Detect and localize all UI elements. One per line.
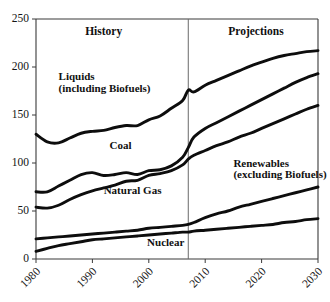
series-annotation-label: Renewables (233, 157, 289, 169)
series-annotation-label: (including Biofuels) (59, 82, 151, 95)
region-label: History (85, 25, 122, 38)
y-tick-label: 100 (12, 156, 30, 168)
series-annotation-label: Liquids (59, 70, 96, 82)
x-tick-label: 2020 (243, 265, 268, 290)
x-tick-label: 1990 (74, 265, 99, 290)
y-tick-label: 150 (12, 108, 30, 120)
series-annotation-label: (excluding Biofuels) (233, 168, 327, 181)
series-annotation-label: Coal (110, 139, 132, 151)
x-tick-label: 1980 (18, 265, 43, 290)
y-axis-tick-labels: 050100150200250 (12, 12, 30, 264)
chart-canvas: 050100150200250 198019902000201020202030… (0, 0, 330, 302)
series-annotation-label: Natural Gas (104, 184, 162, 196)
y-tick-label: 250 (12, 12, 30, 24)
y-tick-label: 50 (18, 204, 30, 216)
region-label: Projections (228, 25, 284, 38)
x-tick-label: 2010 (187, 265, 212, 290)
series-annotation-label: Nuclear (147, 236, 184, 248)
y-tick-label: 0 (23, 252, 29, 264)
y-tick-label: 200 (12, 60, 30, 72)
x-axis-tick-labels: 198019902000201020202030 (18, 265, 325, 290)
x-tick-label: 2030 (300, 265, 325, 290)
energy-consumption-chart: 050100150200250 198019902000201020202030… (0, 0, 330, 302)
x-tick-label: 2000 (130, 265, 155, 290)
